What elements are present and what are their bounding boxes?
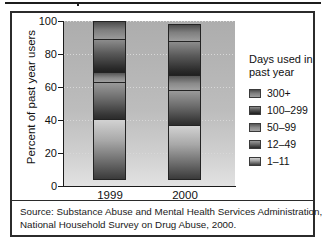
- legend-label-1-11: 1–11: [267, 155, 290, 167]
- bar-1999-segment-1-11[interactable]: [93, 119, 126, 180]
- legend-item-50-99[interactable]: 50–99: [249, 120, 317, 134]
- bar-2000-segment-100-299[interactable]: [168, 41, 201, 77]
- legend-title-line2: past year: [249, 66, 317, 79]
- bar-2000-segment-12-49[interactable]: [168, 90, 201, 126]
- legend: Days used in past year 300+ 100–299 50–9…: [249, 53, 317, 171]
- legend-item-100-299[interactable]: 100–299: [249, 103, 317, 117]
- ytick-20: [58, 153, 63, 154]
- legend-swatch-12-49-icon: [249, 140, 261, 149]
- ytick-100: [58, 21, 63, 22]
- source-caption-line1: Source: Substance Abuse and Mental Healt…: [20, 205, 307, 218]
- legend-title-line1: Days used in: [249, 53, 317, 66]
- ytick-label-60: 60: [17, 82, 57, 92]
- legend-swatch-1-11-icon: [249, 157, 261, 166]
- legend-items: 300+ 100–299 50–99 12–49: [249, 86, 317, 168]
- ytick-label-40: 40: [17, 115, 57, 125]
- y-axis-title: Percent of past year users: [25, 22, 37, 172]
- ytick-0: [58, 186, 63, 187]
- bar-1999-segment-100-299[interactable]: [93, 39, 126, 74]
- top-divider-rule: [5, 2, 321, 4]
- ytick-40: [58, 120, 63, 121]
- chart-area: 100 80 60 40 20 0 Percent of past year u…: [12, 13, 313, 200]
- bar-1999-segment-300plus[interactable]: [93, 21, 126, 41]
- ytick-label-20: 20: [17, 148, 57, 158]
- legend-item-12-49[interactable]: 12–49: [249, 137, 317, 151]
- caption-divider: [12, 200, 313, 201]
- figure-frame: 100 80 60 40 20 0 Percent of past year u…: [10, 11, 315, 237]
- legend-label-12-49: 12–49: [267, 138, 296, 150]
- gridline-20: [64, 153, 235, 154]
- gridline-60: [64, 87, 235, 88]
- legend-title: Days used in past year: [249, 53, 317, 78]
- ytick-label-80: 80: [17, 49, 57, 59]
- bar-2000[interactable]: [168, 24, 201, 186]
- gridline-40: [64, 120, 235, 121]
- legend-swatch-50-99-icon: [249, 123, 261, 132]
- legend-swatch-300plus-icon: [249, 89, 261, 98]
- x-axis-line: [63, 186, 236, 187]
- legend-item-300plus[interactable]: 300+: [249, 86, 317, 100]
- bar-2000-segment-1-11[interactable]: [168, 125, 201, 180]
- source-caption-line2: National Household Survey on Drug Abuse,…: [20, 218, 307, 231]
- ytick-80: [58, 54, 63, 55]
- legend-label-50-99: 50–99: [267, 121, 296, 133]
- legend-label-100-299: 100–299: [267, 104, 308, 116]
- legend-label-300plus: 300+: [267, 87, 291, 99]
- bar-2000-segment-300plus[interactable]: [168, 24, 201, 42]
- ytick-label-0: 0: [17, 181, 57, 191]
- gridline-100: [64, 21, 235, 22]
- figure-page: 100 80 60 40 20 0 Percent of past year u…: [0, 0, 325, 249]
- y-axis-line: [63, 21, 64, 187]
- source-caption: Source: Substance Abuse and Mental Healt…: [20, 205, 307, 231]
- gridline-80: [64, 54, 235, 55]
- bar-1999[interactable]: [93, 21, 126, 186]
- ytick-label-100: 100: [17, 16, 57, 26]
- plot-background: [63, 21, 235, 186]
- ytick-60: [58, 87, 63, 88]
- legend-swatch-100-299-icon: [249, 106, 261, 115]
- top-divider-tick: [77, 2, 79, 6]
- legend-item-1-11[interactable]: 1–11: [249, 154, 317, 168]
- bar-1999-segment-12-49[interactable]: [93, 82, 126, 120]
